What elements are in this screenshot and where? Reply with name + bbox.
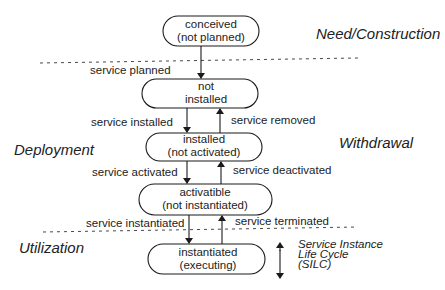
phase-label-deployment: Deployment xyxy=(14,141,95,158)
state-not-installed-line2: installed xyxy=(185,93,227,105)
label-service-terminated: service terminated xyxy=(235,215,329,227)
state-conceived: conceived (not planned) xyxy=(163,16,259,46)
state-installed-line1: installed xyxy=(183,133,225,145)
legend-silc-line3: (SILC) xyxy=(298,258,331,270)
label-service-instantiated: service instantiated xyxy=(86,217,184,229)
state-instantiated: instantiated (executing) xyxy=(148,244,265,274)
phase-label-utilization: Utilization xyxy=(19,239,84,256)
state-activatible-line2: (not instantiated) xyxy=(162,199,248,211)
silc-state-diagram: Need/Construction Deployment Withdrawal … xyxy=(0,0,445,290)
state-instantiated-line1: instantiated xyxy=(179,246,238,258)
phase-divider-top xyxy=(40,58,358,63)
state-installed: installed (not activated) xyxy=(146,133,262,161)
state-installed-line2: (not activated) xyxy=(168,146,241,158)
state-instantiated-line2: (executing) xyxy=(180,259,237,271)
label-service-activated: service activated xyxy=(92,166,178,178)
state-conceived-line1: conceived xyxy=(185,18,237,30)
phase-label-withdrawal: Withdrawal xyxy=(339,134,414,151)
label-service-deactivated: service deactivated xyxy=(233,164,331,176)
label-service-installed: service installed xyxy=(91,116,173,128)
label-service-removed: service removed xyxy=(231,114,315,126)
state-not-installed: not installed xyxy=(142,79,258,108)
state-not-installed-line1: not xyxy=(198,80,215,92)
state-activatible: activatible (not instantiated) xyxy=(139,184,272,215)
state-activatible-line1: activatible xyxy=(179,186,230,198)
phase-label-need-construction: Need/Construction xyxy=(316,25,440,42)
state-conceived-line2: (not planned) xyxy=(177,31,245,43)
label-service-planned: service planned xyxy=(90,64,171,76)
